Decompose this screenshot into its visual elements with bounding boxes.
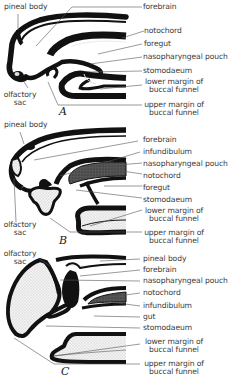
panel-b-label-forebrain: forebrain	[143, 136, 177, 144]
panel-a-label-pineal-body: pineal body	[4, 3, 47, 11]
panel-b-label-lower-margin-buccal-funnel: lower margin of buccal funnel	[140, 207, 208, 223]
panel-b-label-notochord: notochord	[143, 172, 181, 180]
panel-b-drawing	[11, 130, 126, 233]
panel-a-label-lower-margin-buccal-funnel: lower margin of buccal funnel	[140, 78, 208, 94]
panel-b-label-infundibulum: infundibulum	[143, 148, 192, 156]
panel-a-caption: A	[59, 105, 67, 118]
panel-b-label-nasopharyngeal-pouch: nasopharyngeal pouch	[143, 160, 228, 168]
panel-c-label-forebrain: forebrain	[143, 266, 177, 274]
panel-c-label-olfactory-sac: olfactory sac	[2, 250, 38, 266]
panel-c-drawing	[8, 257, 126, 370]
panel-c-label-nasopharyngeal-pouch: nasopharyngeal pouch	[143, 277, 228, 285]
panel-a-label-stomodaeum: stomodaeum	[143, 67, 192, 75]
panel-c-label-pineal-body: pineal body	[143, 255, 186, 263]
panel-a-label-nasopharyngeal-pouch: nasopharyngeal pouch	[143, 53, 228, 61]
panel-c-label-infundibulum: infundibulum	[143, 302, 192, 310]
panel-b-label-upper-margin-buccal-funnel: upper margin of buccal funnel	[140, 229, 208, 245]
panel-a-drawing	[9, 15, 126, 96]
panel-b-label-olfactory-sac: olfactory sac	[2, 221, 38, 237]
panel-b-label-foregut: foregut	[143, 184, 170, 192]
panel-a-label-forebrain: forebrain	[143, 3, 177, 11]
panel-b-label-stomodaeum: stomodaeum	[143, 196, 192, 204]
panel-a-label-upper-margin-buccal-funnel: upper margin of buccal funnel	[140, 101, 208, 117]
panel-a-label-notochord: notochord	[144, 27, 182, 35]
panel-b-label-pineal-body: pineal body	[4, 121, 47, 129]
panel-c-label-gut: gut	[143, 313, 155, 321]
panel-c-label-stomodaeum: stomodaeum	[143, 324, 192, 332]
panel-c-label-notochord: notochord	[143, 289, 181, 297]
panel-c-label-upper-margin-buccal-funnel: upper margin of buccal funnel	[140, 360, 208, 376]
panel-a-label-foregut: foregut	[144, 40, 171, 48]
panel-a-label-olfactory-sac: olfactory sac	[2, 91, 38, 107]
panel-c-caption: C	[61, 365, 69, 378]
panel-c-label-lower-margin-buccal-funnel: lower margin of buccal funnel	[140, 338, 208, 354]
panel-b-caption: B	[59, 234, 67, 247]
